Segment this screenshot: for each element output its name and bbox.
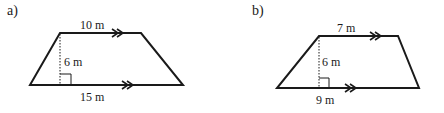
part-label-b: b) xyxy=(252,3,264,19)
figure-b: b) 7 m 6 m 9 m xyxy=(252,3,419,107)
height-label-a: 6 m xyxy=(64,55,83,69)
trapezoid-b xyxy=(277,36,419,88)
bottom-length-label-b: 9 m xyxy=(316,93,335,107)
bottom-length-label-a: 15 m xyxy=(80,90,105,104)
trapezoid-a xyxy=(30,33,183,85)
right-angle-icon xyxy=(319,78,329,88)
top-length-label-b: 7 m xyxy=(337,21,356,35)
part-label-a: a) xyxy=(7,3,18,19)
height-label-b: 6 m xyxy=(322,55,341,69)
top-length-label-a: 10 m xyxy=(80,18,105,32)
figure-a: a) 10 m 6 m 15 m xyxy=(7,3,183,104)
diagram-canvas: a) 10 m 6 m 15 m b) 7 m 6 m 9 m xyxy=(0,0,444,113)
right-angle-icon xyxy=(60,74,71,85)
